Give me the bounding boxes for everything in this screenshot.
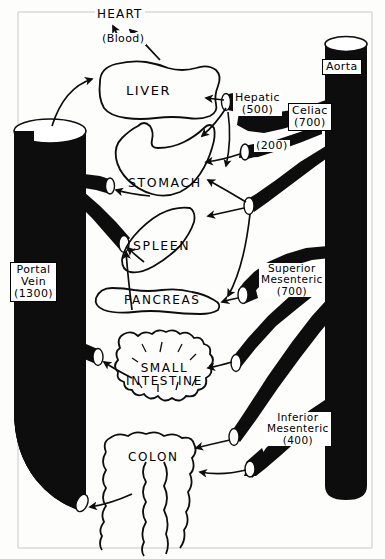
portal-vein-vessel xyxy=(14,119,130,513)
vessel-label-left-gastric-artery: (200) xyxy=(254,140,290,152)
vessel-label-superior-mesenteric-artery: Superior Mesenteric (700) xyxy=(259,263,325,297)
blood-label: (Blood) xyxy=(100,33,146,45)
organ-label-small-intestine: SMALL INTESTINE xyxy=(126,362,203,387)
organ-label-spleen: SPLEEN xyxy=(133,239,190,252)
vessel-label-portal-vein: Portal Vein (1300) xyxy=(10,262,57,302)
vessel-label-hepatic-artery: Hepatic (500) xyxy=(233,92,282,116)
heart-label: HEART xyxy=(95,8,145,21)
organ-label-stomach: STOMACH xyxy=(128,176,202,189)
splanchnic-circulation-diagram xyxy=(0,0,385,559)
vessel-label-celiac-artery: Celiac (700) xyxy=(288,103,332,131)
figure-canvas: HEART (Blood) Aorta Portal Vein (1300) H… xyxy=(0,0,385,559)
organ-label-liver: LIVER xyxy=(126,84,171,98)
organ-label-colon: COLON xyxy=(128,451,179,464)
vessel-label-inferior-mesenteric-artery: Inferior Mesenteric (400) xyxy=(265,412,331,446)
vessel-label-aorta: Aorta xyxy=(322,59,362,75)
organ-label-pancreas: PANCREAS xyxy=(124,294,201,307)
